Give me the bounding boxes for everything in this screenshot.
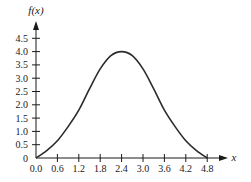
x-tick-label: 0.0 bbox=[30, 163, 43, 174]
x-tick-label: 4.2 bbox=[180, 163, 193, 174]
x-tick-label: 1.2 bbox=[73, 163, 86, 174]
y-tick-label: 3.5 bbox=[16, 59, 29, 70]
axes bbox=[33, 21, 228, 161]
y-tick-label: 2.5 bbox=[16, 86, 29, 97]
y-tick-label: 0 bbox=[23, 153, 28, 164]
x-tick-label: 3.0 bbox=[137, 163, 150, 174]
chart: 0.00.61.21.82.43.03.64.24.800.51.01.52.0… bbox=[0, 0, 251, 182]
x-tick-label: 4.8 bbox=[201, 163, 214, 174]
y-tick-label: 1.0 bbox=[16, 126, 29, 137]
y-tick-label: 0.5 bbox=[16, 139, 29, 150]
y-tick-label: 1.5 bbox=[16, 113, 29, 124]
x-tick-label: 0.6 bbox=[51, 163, 64, 174]
series bbox=[36, 52, 207, 158]
x-tick-label: 2.4 bbox=[115, 163, 128, 174]
y-tick-label: 4.5 bbox=[16, 33, 29, 44]
y-axis-arrow bbox=[33, 21, 39, 30]
x-tick-label: 3.6 bbox=[158, 163, 171, 174]
x-axis-arrow bbox=[219, 155, 228, 161]
series-line-f-x bbox=[36, 52, 207, 158]
x-tick-label: 1.8 bbox=[94, 163, 107, 174]
y-axis-label: f(x) bbox=[28, 4, 44, 17]
y-tick-label: 3.0 bbox=[16, 73, 29, 84]
y-tick-label: 2.0 bbox=[16, 99, 29, 110]
x-axis-label: x bbox=[231, 151, 237, 163]
y-tick-label: 4.0 bbox=[16, 46, 29, 57]
